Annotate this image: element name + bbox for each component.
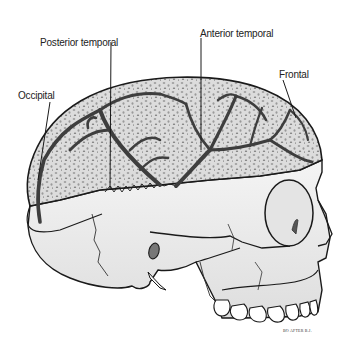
label-anterior-temporal: Anterior temporal: [200, 28, 273, 39]
label-posterior-temporal: Posterior temporal: [40, 37, 118, 48]
skull-illustration: Posterior temporal Anterior temporal Fro…: [0, 0, 346, 352]
label-frontal: Frontal: [279, 69, 309, 80]
skull-drawing: [0, 0, 346, 352]
label-occipital: Occipital: [18, 90, 55, 101]
artist-signature: BO AFTER B.J.: [283, 328, 312, 333]
